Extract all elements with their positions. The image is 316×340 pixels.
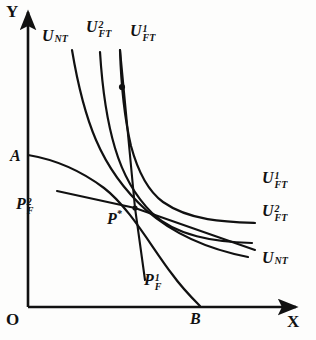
equilibrium-star: *	[117, 208, 122, 219]
economics-figure: Y X O A B P* UNT U2FT U1FT U1FT U2FT U	[0, 0, 316, 340]
equilibrium-point-marker	[132, 205, 137, 210]
p-f-1-base: P	[144, 271, 154, 288]
price-label-p-f-1: P1F	[144, 272, 161, 291]
y-axis-label: Y	[6, 3, 18, 20]
u-nt-right-sub: NT	[275, 256, 288, 265]
equilibrium-letter: P	[107, 210, 117, 227]
curve-label-u-ft-1-top: U1FT	[130, 23, 155, 42]
equilibrium-label: P*	[107, 210, 122, 227]
p-f-2-sub: F	[27, 206, 34, 215]
curve-label-u-ft-2-top: U2FT	[86, 19, 111, 38]
point-b-label: B	[190, 311, 201, 327]
curve-label-u-nt-right: UNT	[262, 250, 288, 266]
u-ft-1-right-base: U	[262, 169, 274, 186]
curve-label-u-nt-top: UNT	[42, 28, 68, 44]
u-ft-1-top-base: U	[130, 22, 142, 39]
price-label-p-f-2: P2F	[16, 196, 33, 215]
u-ft-1-right-sub: FT	[275, 180, 288, 189]
x-axis-label: X	[287, 313, 299, 330]
u-ft-2-top-base: U	[86, 18, 98, 35]
curve-label-u-ft-1-right: U1FT	[262, 170, 287, 189]
marker-dot-u-ft-1	[119, 84, 125, 90]
u-nt-right-base: U	[262, 249, 274, 266]
u-ft-2-right-sub: FT	[275, 213, 288, 222]
u-ft-2-top-sub: FT	[99, 29, 112, 38]
curve-label-u-ft-2-right: U2FT	[262, 203, 287, 222]
u-nt-top-sub: NT	[55, 34, 68, 43]
curve-u-nt	[72, 50, 248, 257]
p-f-1-sub: F	[155, 282, 162, 291]
u-ft-1-top-sub: FT	[143, 33, 156, 42]
point-a-label: A	[10, 148, 21, 164]
u-nt-top-base: U	[42, 27, 54, 44]
curve-u-ft-1	[120, 50, 255, 223]
p-f-2-base: P	[16, 195, 26, 212]
origin-label: O	[6, 311, 19, 328]
u-ft-2-right-base: U	[262, 202, 274, 219]
